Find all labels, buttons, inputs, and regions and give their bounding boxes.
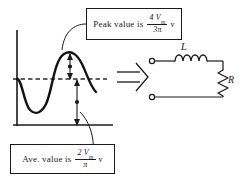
inductor-label: L bbox=[181, 41, 187, 52]
average-numerator-text: 2 V bbox=[77, 148, 89, 157]
peak-measure-arrow bbox=[67, 53, 73, 80]
peak-value-unit: v bbox=[170, 20, 174, 29]
peak-callout-leader-line bbox=[62, 24, 86, 50]
average-value-lead-text: Ave. value is bbox=[22, 154, 71, 164]
peak-value-fraction: 4 Vm 3π bbox=[147, 14, 167, 34]
average-value-unit: v bbox=[99, 155, 103, 164]
peak-numerator-subscript: m bbox=[161, 19, 166, 25]
peak-measure-midpoint-dot bbox=[68, 64, 72, 68]
average-numerator-subscript: m bbox=[89, 154, 94, 160]
peak-value-callout: Peak value is 4 Vm 3π v bbox=[86, 8, 182, 40]
sine-waveform-curve bbox=[17, 52, 96, 113]
average-fraction-numerator: 2 Vm bbox=[75, 149, 95, 159]
peak-value-formula: Peak value is 4 Vm 3π v bbox=[93, 14, 174, 34]
average-value-fraction: 2 Vm π bbox=[75, 149, 95, 169]
peak-value-lead-text: Peak value is bbox=[93, 19, 143, 29]
average-measure-midpoint-dot bbox=[75, 100, 79, 104]
peak-fraction-numerator: 4 Vm bbox=[147, 14, 167, 24]
figure-container: Peak value is 4 Vm 3π v Ave. value is 2 … bbox=[0, 0, 242, 182]
circuit-terminal-top-icon bbox=[149, 58, 154, 63]
average-fraction-denominator: π bbox=[81, 160, 89, 169]
peak-numerator-text: 4 V bbox=[149, 13, 161, 22]
inductor-coil-icon bbox=[175, 55, 207, 61]
lr-series-circuit bbox=[149, 55, 228, 100]
resistor-label: R bbox=[228, 74, 234, 85]
peak-fraction-denominator: 3π bbox=[151, 25, 163, 34]
circuit-terminal-bottom-icon bbox=[149, 94, 154, 99]
average-value-callout: Ave. value is 2 Vm π v bbox=[10, 144, 115, 174]
implies-arrow-icon bbox=[117, 63, 148, 91]
average-measure-arrow bbox=[74, 79, 80, 126]
resistor-zigzag-icon bbox=[218, 70, 228, 96]
average-value-formula: Ave. value is 2 Vm π v bbox=[22, 149, 102, 169]
